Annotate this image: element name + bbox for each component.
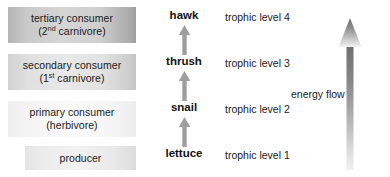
role-label-prefix: (1 <box>39 72 48 84</box>
role-box-producer: producer <box>25 146 136 170</box>
role-label-line2: (2nd carnivore) <box>38 25 105 38</box>
role-label-superscript: nd <box>48 25 56 32</box>
trophic-level-label-2: trophic level 2 <box>225 103 290 115</box>
trophic-levels-diagram: tertiary consumer (2nd carnivore) second… <box>0 0 390 177</box>
organism-label-snail: snail <box>148 101 220 113</box>
role-label-prefix: (2 <box>38 25 47 37</box>
role-box-tertiary-consumer: tertiary consumer (2nd carnivore) <box>8 7 136 43</box>
role-box-secondary-consumer: secondary consumer (1st carnivore) <box>8 54 136 90</box>
up-arrow-icon-lettuce-to-snail <box>178 117 191 147</box>
organism-label-hawk: hawk <box>148 9 220 21</box>
role-label-line1: secondary consumer <box>23 59 121 72</box>
role-label-line1: primary consumer <box>30 106 115 119</box>
trophic-level-label-1: trophic level 1 <box>225 149 290 161</box>
organism-label-thrush: thrush <box>148 55 220 67</box>
role-label-suffix: carnivore) <box>54 72 104 84</box>
role-box-primary-consumer: primary consumer (herbivore) <box>8 101 136 137</box>
organism-label-lettuce: lettuce <box>148 147 220 159</box>
trophic-level-label-3: trophic level 3 <box>225 57 290 69</box>
up-arrow-icon-snail-to-thrush <box>178 71 191 101</box>
role-label-line1: producer <box>60 152 102 165</box>
up-arrow-icon-thrush-to-hawk <box>178 25 191 55</box>
energy-flow-label: energy flow <box>291 88 345 100</box>
trophic-level-label-4: trophic level 4 <box>225 11 290 23</box>
role-label-line2: (1st carnivore) <box>39 72 104 85</box>
role-label-suffix: carnivore) <box>56 25 106 37</box>
role-label-line1: tertiary consumer <box>31 12 113 25</box>
role-label-line2: (herbivore) <box>46 119 97 132</box>
